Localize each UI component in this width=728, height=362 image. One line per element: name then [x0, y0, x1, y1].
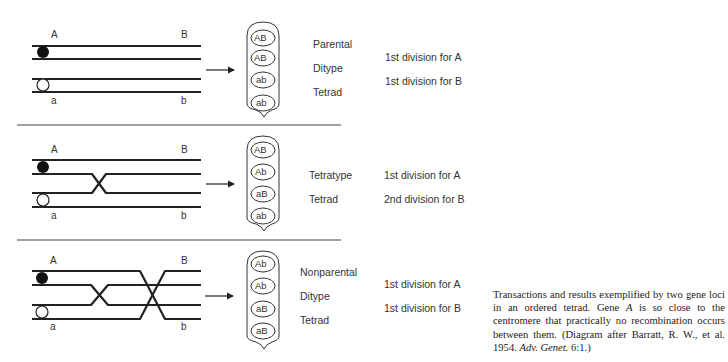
centromere-open-icon: [36, 306, 48, 318]
spore-label: aB: [256, 188, 268, 199]
spore-label: ab: [256, 97, 267, 108]
locus-label-B: B: [181, 29, 188, 40]
division-label: 1st division for B: [385, 76, 462, 87]
division-label: 1st division for A: [384, 279, 460, 290]
tetrad-type-label: Tetrad: [313, 87, 342, 98]
centromere-open-icon: [37, 79, 49, 91]
panel-1-chromatids: [32, 46, 201, 92]
tetrad-type-label: Tetrad: [309, 194, 338, 205]
division-label: 1st division for B: [384, 303, 461, 314]
caption-journal: Adv. Genet.: [519, 342, 568, 353]
division-label: 1st division for A: [384, 170, 460, 181]
spore-label: ab: [256, 74, 267, 85]
panel-3-chromatids: [32, 271, 201, 319]
centromere-filled-icon: [37, 161, 49, 173]
caption-text: 6:1.): [568, 342, 590, 353]
tetrad-type-label: Parental: [313, 39, 352, 50]
centromere-filled-icon: [37, 46, 49, 58]
tetrad-diagram: A B a b AB AB ab ab Parental Ditype Tetr…: [0, 0, 728, 362]
tetrad-type-label: Ditype: [300, 291, 330, 302]
locus-label-b: b: [181, 95, 187, 106]
division-label: 1st division for A: [385, 52, 461, 63]
tetrad-type-label: Tetratype: [309, 170, 352, 181]
spore-label: AB: [254, 144, 267, 155]
panel-2-chromatids: [32, 160, 201, 207]
spore-label: Ab: [255, 280, 267, 291]
centromere-filled-icon: [36, 272, 48, 284]
locus-label-B: B: [181, 144, 188, 155]
spore-label: Ab: [255, 166, 267, 177]
spore-label: AB: [254, 52, 267, 63]
division-label: 2nd division for B: [384, 194, 465, 205]
centromere-open-icon: [37, 194, 49, 206]
locus-label-B: B: [181, 255, 188, 266]
tetrad-type-label: Tetrad: [300, 315, 329, 326]
tetrad-type-label: Ditype: [313, 63, 343, 74]
locus-label-A: A: [51, 144, 58, 155]
locus-label-a: a: [50, 321, 56, 332]
spore-label: AB: [254, 32, 267, 43]
locus-label-b: b: [181, 210, 187, 221]
spore-label: aB: [256, 303, 268, 314]
figure-caption: Transactions and results exemplified by …: [493, 288, 725, 354]
spore-label: ab: [256, 210, 267, 221]
locus-label-A: A: [51, 29, 58, 40]
spore-label: Ab: [255, 258, 267, 269]
locus-label-A: A: [50, 255, 57, 266]
locus-label-a: a: [51, 95, 57, 106]
spore-label: aB: [256, 325, 268, 336]
locus-label-b: b: [181, 321, 187, 332]
locus-label-a: a: [51, 210, 57, 221]
tetrad-type-label: Nonparental: [300, 267, 357, 278]
